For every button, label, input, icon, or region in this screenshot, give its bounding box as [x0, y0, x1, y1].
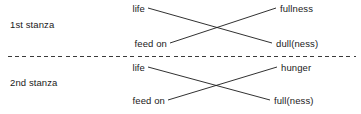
term-stanza2-left-feed-on: feed on — [133, 95, 165, 106]
connector-feedon-to-hunger — [168, 67, 277, 100]
term-stanza1-right-fullness: fullness — [280, 3, 313, 14]
term-stanza2-right-hunger: hunger — [281, 62, 311, 73]
term-stanza1-left-life: life — [132, 3, 145, 14]
correspondence-diagram: 1st stanza life feed on fullness dull(ne… — [0, 0, 361, 114]
term-stanza2-right-fullness: full(ness) — [274, 95, 314, 106]
term-stanza2-left-life: life — [132, 62, 145, 73]
stanza-label-2: 2nd stanza — [10, 77, 57, 88]
term-stanza1-left-feed-on: feed on — [135, 38, 167, 49]
connector-life-to-fullness2 — [148, 67, 270, 100]
connector-feedon-to-fullness — [170, 8, 276, 43]
term-stanza1-right-dullness: dull(ness) — [276, 38, 318, 49]
stanza-label-1: 1st stanza — [10, 19, 54, 30]
